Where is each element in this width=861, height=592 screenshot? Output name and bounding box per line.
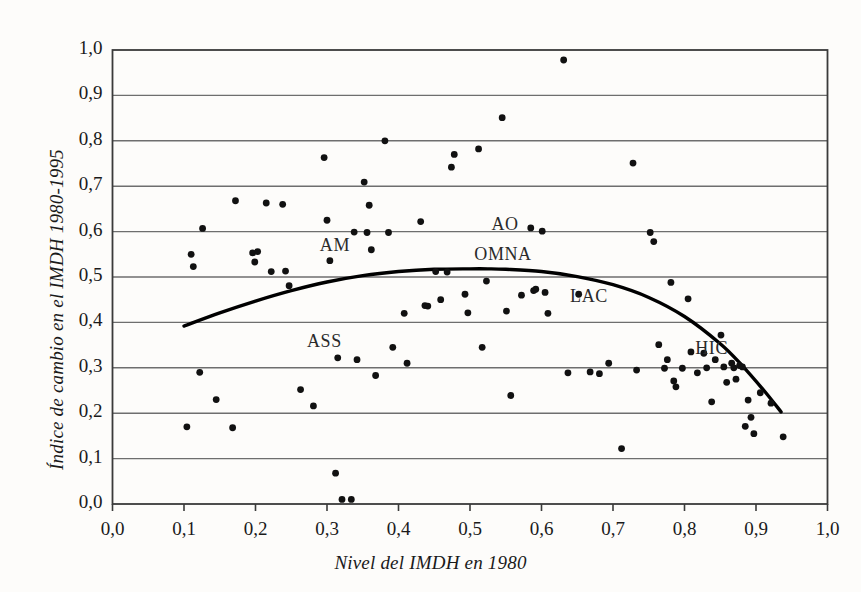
- y-tick-label: 0,8: [51, 128, 103, 150]
- data-point: [780, 433, 787, 440]
- data-point: [451, 151, 458, 158]
- x-tick-label: 0,8: [659, 518, 711, 540]
- data-point: [565, 369, 572, 376]
- x-tick-label: 0,9: [730, 518, 782, 540]
- x-tick-label: 0,5: [444, 518, 496, 540]
- data-point: [664, 356, 671, 363]
- data-point: [229, 424, 236, 431]
- data-point: [321, 154, 328, 161]
- data-point: [385, 229, 392, 236]
- data-point: [279, 201, 286, 208]
- data-point: [483, 278, 490, 285]
- x-tick-label: 0,7: [587, 518, 639, 540]
- annotation-am: AM: [320, 235, 350, 256]
- data-point: [324, 217, 331, 224]
- x-tick-label: 1,0: [802, 518, 854, 540]
- data-point: [618, 445, 625, 452]
- data-point: [351, 229, 358, 236]
- y-tick-label: 0,0: [51, 491, 103, 513]
- data-point: [364, 229, 371, 236]
- data-point: [334, 354, 341, 361]
- annotation-hic: HIC: [695, 338, 728, 359]
- data-point: [679, 365, 686, 372]
- plot-canvas: [0, 0, 861, 592]
- x-tick-label: 0,6: [516, 518, 568, 540]
- y-tick-label: 0,7: [51, 173, 103, 195]
- data-point: [688, 349, 695, 356]
- data-point: [587, 368, 594, 375]
- data-point: [196, 369, 203, 376]
- data-point: [389, 344, 396, 351]
- data-point: [368, 246, 375, 253]
- data-point: [720, 363, 727, 370]
- x-tick-label: 0,1: [158, 518, 210, 540]
- data-point: [310, 403, 317, 410]
- data-point: [268, 268, 275, 275]
- data-point: [518, 292, 525, 299]
- x-axis-tick-marks: [113, 504, 828, 511]
- y-tick-label: 0,3: [51, 355, 103, 377]
- data-point: [745, 397, 752, 404]
- gridlines-group: [113, 95, 828, 458]
- data-point: [462, 291, 469, 298]
- data-point: [348, 496, 355, 503]
- data-point: [437, 296, 444, 303]
- y-tick-label: 0,5: [51, 264, 103, 286]
- data-points-group: [183, 57, 786, 503]
- data-point: [254, 248, 261, 255]
- data-point: [673, 383, 680, 390]
- annotation-ao: AO: [491, 214, 518, 235]
- data-point: [499, 114, 506, 121]
- data-point: [199, 225, 206, 232]
- data-point: [332, 470, 339, 477]
- data-point: [286, 282, 293, 289]
- annotation-omna: OMNA: [474, 244, 531, 265]
- data-point: [542, 289, 549, 296]
- data-point: [545, 310, 552, 317]
- data-point: [633, 367, 640, 374]
- data-point: [596, 370, 603, 377]
- data-point: [668, 279, 675, 286]
- data-point: [739, 363, 746, 370]
- data-point: [647, 229, 654, 236]
- x-tick-label: 0,2: [230, 518, 282, 540]
- y-tick-label: 1,0: [51, 37, 103, 59]
- x-tick-label: 0,0: [87, 518, 139, 540]
- data-point: [703, 364, 710, 371]
- annotation-ass: ASS: [307, 331, 342, 352]
- data-point: [479, 344, 486, 351]
- data-point: [768, 400, 775, 407]
- data-point: [742, 423, 749, 430]
- data-point: [605, 360, 612, 367]
- data-point: [670, 378, 677, 385]
- data-point: [723, 379, 730, 386]
- x-tick-label: 0,4: [373, 518, 425, 540]
- data-point: [188, 251, 195, 258]
- data-point: [354, 356, 361, 363]
- data-point: [539, 228, 546, 235]
- data-point: [424, 303, 431, 310]
- data-point: [417, 218, 424, 225]
- data-point: [297, 386, 304, 393]
- data-point: [372, 372, 379, 379]
- data-point: [507, 392, 514, 399]
- data-point: [560, 57, 567, 64]
- data-point: [685, 295, 692, 302]
- data-point: [630, 160, 637, 167]
- y-tick-label: 0,1: [51, 446, 103, 468]
- x-tick-label: 0,3: [301, 518, 353, 540]
- data-point: [532, 286, 539, 293]
- data-point: [503, 308, 510, 315]
- data-point: [282, 268, 289, 275]
- data-point: [694, 369, 701, 376]
- data-point: [661, 365, 668, 372]
- trend-curve: [184, 269, 781, 412]
- data-point: [708, 398, 715, 405]
- data-point: [251, 259, 258, 266]
- data-point: [213, 396, 220, 403]
- data-point: [464, 309, 471, 316]
- data-point: [527, 225, 534, 232]
- data-point: [263, 200, 270, 207]
- data-point: [366, 202, 373, 209]
- data-point: [733, 376, 740, 383]
